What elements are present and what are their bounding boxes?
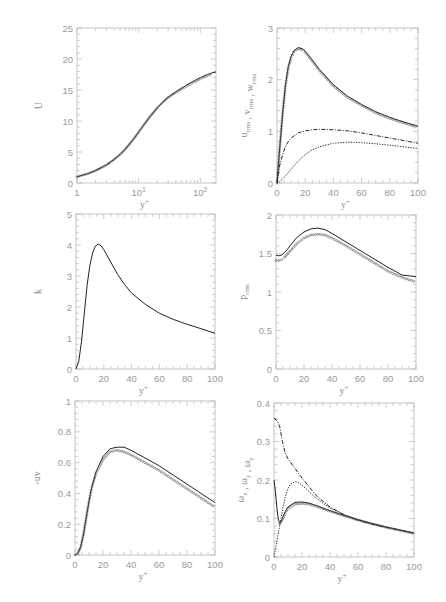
data-marker [296,242,298,244]
data-marker [311,60,313,62]
series-line [274,480,414,533]
data-marker [294,503,296,505]
series-line [276,228,416,277]
data-marker [399,275,401,277]
data-marker [188,489,190,491]
y-tick-label: 0.2 [257,475,270,486]
data-marker [326,235,328,237]
panel-rms-velocity: 0204060801000123y+urms , vrms , wrms [238,23,426,211]
data-marker [401,276,403,278]
data-marker [354,250,356,252]
data-marker [177,482,179,484]
y-tick-label: 0 [265,552,270,563]
data-marker [378,265,380,267]
x-tick-label: 40 [328,187,339,198]
data-marker [289,506,291,508]
data-marker [301,49,303,51]
plot-frame [77,28,216,183]
data-marker [350,248,352,250]
data-marker [153,467,155,469]
data-marker [184,486,186,488]
data-marker [387,270,389,272]
y-tick-label: 0.4 [58,488,71,499]
x-tick-label: 100 [408,373,424,384]
data-marker [333,238,335,240]
data-marker [279,523,281,525]
y-axis-label: U [33,101,44,109]
data-marker [373,262,375,264]
x-tick-label: 101 [131,186,146,198]
plot-frame [277,28,418,183]
data-marker [149,464,151,466]
data-marker [297,48,299,50]
data-marker [296,503,298,505]
x-tick-label: 80 [381,561,392,572]
series-line [76,244,215,369]
data-marker [156,468,158,470]
data-marker [343,244,345,246]
data-marker [121,450,123,452]
data-marker [336,240,338,242]
data-marker [299,48,301,50]
data-marker [205,500,207,502]
y-tick-label: 0.3 [257,436,270,447]
panel-uv-stress: 02040608010000.20.40.60.81y+-uv [31,396,223,583]
y-axis-label: urms , vrms , wrms [238,73,258,137]
series-line [274,482,414,557]
x-tick-label: 20 [299,373,310,384]
y-axis-label: -uv [31,471,42,484]
y-tick-label: 1.5 [259,248,272,259]
y-tick-label: 0.1 [257,513,270,524]
data-marker [200,497,202,499]
plot-frame [76,214,215,369]
data-marker [137,458,139,460]
data-marker [310,234,312,236]
data-marker [139,459,141,461]
data-marker [315,234,317,236]
x-axis-label: y+ [340,384,349,396]
data-marker [293,246,295,248]
data-marker [306,53,308,55]
x-axis-label: y+ [140,198,149,210]
data-marker [319,234,321,236]
x-tick-label: 0 [73,373,78,384]
data-marker [281,259,283,261]
y-tick-label: 0 [67,364,72,375]
data-marker [170,477,172,479]
x-axis-label: y+ [139,384,148,396]
data-marker [193,492,195,494]
data-marker [317,506,319,508]
y-tick-label: 0 [68,178,73,189]
data-marker [132,455,134,457]
x-tick-label: 40 [126,373,137,384]
data-marker [298,241,300,243]
y-axis-label: k [32,289,43,294]
x-tick-label: 0 [72,559,77,570]
plot-frame [75,401,215,555]
data-marker [209,74,211,76]
x-tick-label: 60 [353,561,364,572]
data-marker [347,246,349,248]
data-marker [165,474,167,476]
data-marker [207,502,209,504]
data-marker [313,62,315,64]
data-marker [385,269,387,271]
data-marker [292,505,294,507]
data-marker [118,450,120,452]
y-tick-label: 1 [268,126,273,137]
data-marker [301,502,303,504]
data-marker [291,248,293,250]
data-marker [359,253,361,255]
y-tick-label: 2 [267,210,272,221]
y-tick-label: 1 [66,396,71,407]
x-tick-label: 80 [385,187,396,198]
data-marker [287,507,289,509]
data-marker [315,505,317,507]
y-tick-label: 1 [267,287,272,298]
data-marker [202,499,204,501]
data-marker [167,475,169,477]
y-tick-label: 20 [62,54,73,65]
x-axis-label: y+ [338,572,347,584]
y-tick-label: 15 [62,85,73,96]
data-marker [163,472,165,474]
